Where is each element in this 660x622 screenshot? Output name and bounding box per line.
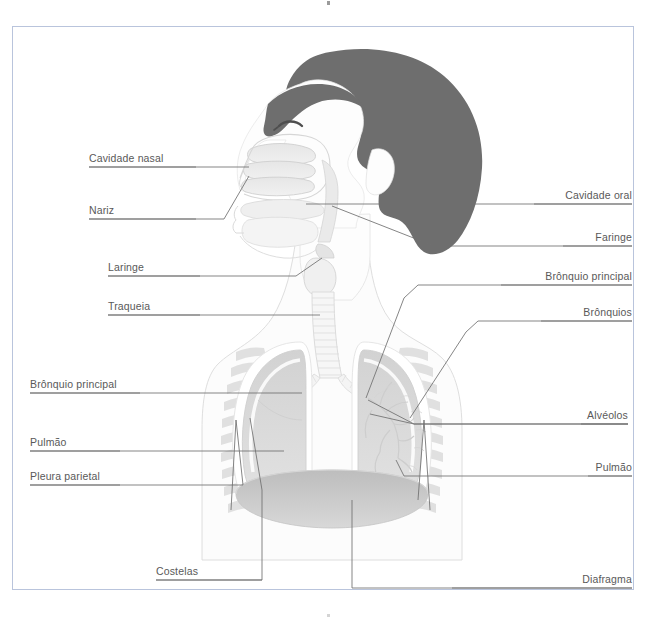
label-bronquio-principal-esquerdo: Brônquio principal (30, 378, 117, 390)
label-bronquio-principal-direito: Brônquio principal (452, 270, 632, 282)
label-pulmao-esquerdo: Pulmão (30, 436, 67, 448)
label-pulmao-direito: Pulmão (452, 461, 632, 473)
label-laringe: Laringe (108, 261, 144, 273)
respiratory-system-figure: Cavidade nasal Nariz Laringe Traqueia Br… (0, 0, 660, 622)
label-nariz: Nariz (89, 204, 114, 216)
label-cavidade-nasal: Cavidade nasal (89, 152, 163, 164)
label-pleura-parietal: Pleura parietal (30, 470, 100, 482)
bottom-registration-mark (327, 614, 330, 617)
label-alveolos: Alvéolos (452, 409, 628, 421)
label-diafragma: Diafragma (452, 573, 632, 585)
label-traqueia: Traqueia (108, 300, 150, 312)
label-cavidade-oral: Cavidade oral (452, 189, 632, 201)
label-faringe: Faringe (452, 231, 632, 243)
top-registration-mark (327, 1, 330, 5)
label-costelas: Costelas (156, 565, 198, 577)
label-bronquios: Brônquios (452, 306, 632, 318)
